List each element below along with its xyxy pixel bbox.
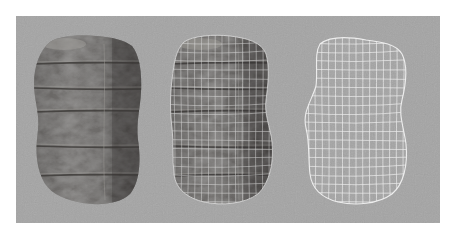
textured-rock-render xyxy=(34,30,152,210)
render-figure xyxy=(0,0,456,239)
